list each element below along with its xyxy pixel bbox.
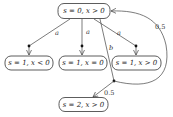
- node-bottom: s = 2, x > 0: [59, 98, 108, 112]
- state-diagram: a a a b 0.5 0.5 s = 0, x > 0 s = 1, x < …: [0, 0, 173, 117]
- edge-top-to-left: [28, 19, 70, 55]
- edge-top-to-right: [94, 19, 137, 55]
- branch-dot: [135, 45, 138, 48]
- node-bottom-label: s = 2, x > 0: [63, 101, 105, 109]
- edge-top-to-middle: [81, 19, 84, 55]
- node-top-label: s = 0, x > 0: [63, 7, 105, 15]
- label-prob-top: 0.5: [155, 23, 165, 31]
- node-right-label: s = 1, x > 0: [116, 59, 158, 67]
- label-a-middle: a: [86, 28, 90, 36]
- label-a-right: a: [117, 29, 121, 37]
- node-middle-label: s = 1, x = 0: [62, 59, 104, 67]
- label-a-left: a: [55, 29, 59, 37]
- node-left-label: s = 1, x < 0: [8, 59, 50, 67]
- branch-dot: [81, 45, 84, 48]
- node-left: s = 1, x < 0: [5, 56, 53, 70]
- label-prob-bottom: 0.5: [104, 89, 114, 97]
- node-middle: s = 1, x = 0: [59, 56, 107, 70]
- node-right: s = 1, x > 0: [112, 56, 161, 70]
- node-top: s = 0, x > 0: [58, 4, 110, 19]
- edge-branch-to-top: [111, 11, 167, 84]
- branch-dot: [28, 45, 31, 48]
- label-b: b: [109, 44, 113, 52]
